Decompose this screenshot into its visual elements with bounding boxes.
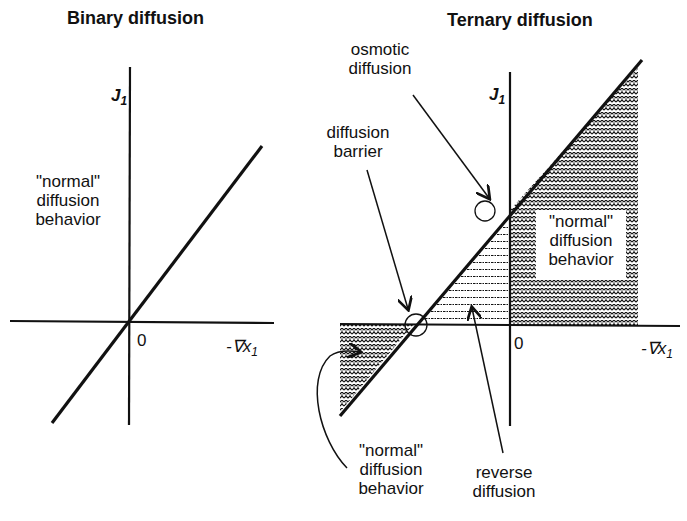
diffusion-barrier-label: diffusion barrier <box>313 123 403 161</box>
normal-behavior-upper-label: "normal" diffusion behavior <box>535 212 627 269</box>
reverse-arrow <box>472 308 503 453</box>
osmotic-point-marker <box>475 201 495 221</box>
normal-region-upper <box>510 68 638 325</box>
right-y-axis-label: J1 <box>489 85 505 107</box>
left-normal-behavior-label: "normal" diffusion behavior <box>28 172 108 229</box>
left-y-axis <box>129 67 130 425</box>
left-x-axis-label: -∇x1 <box>226 336 258 359</box>
left-panel-title: Binary diffusion <box>67 8 204 29</box>
osmotic-arrow <box>413 95 489 198</box>
left-origin-label: 0 <box>137 331 146 351</box>
left-y-axis-label: J1 <box>111 86 127 108</box>
normal-region-lower <box>340 325 413 412</box>
right-x-axis-label: -∇x1 <box>641 338 673 361</box>
reverse-diffusion-label: reverse diffusion <box>458 463 550 501</box>
right-origin-label: 0 <box>514 334 523 354</box>
reverse-diffusion-region <box>420 218 510 325</box>
right-panel-title: Ternary diffusion <box>447 10 593 31</box>
barrier-arrow <box>367 170 408 309</box>
osmotic-diffusion-label: osmotic diffusion <box>335 40 425 78</box>
left-x-axis <box>10 321 274 323</box>
normal-behavior-lower-label: "normal" diffusion behavior <box>345 441 437 498</box>
binary-diffusion-plot <box>10 67 274 425</box>
